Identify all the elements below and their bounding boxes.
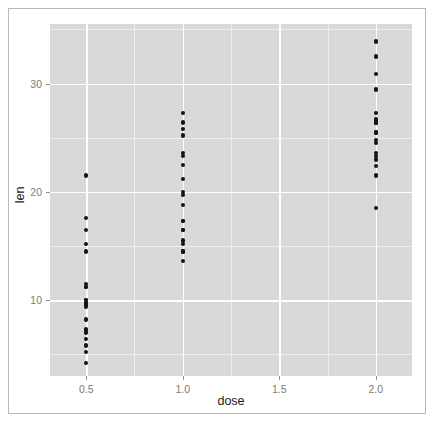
data-point bbox=[374, 138, 378, 142]
y-tick-label: 10 bbox=[12, 295, 42, 306]
data-point bbox=[181, 203, 185, 207]
gridline-minor-horizontal bbox=[50, 138, 412, 139]
chart-figure: 0.51.01.52.0102030 dose len bbox=[0, 0, 434, 422]
data-point bbox=[374, 54, 378, 58]
data-point bbox=[374, 111, 378, 115]
y-tick-mark bbox=[46, 84, 50, 85]
gridline-major-vertical bbox=[279, 24, 281, 376]
x-tick-label: 0.5 bbox=[79, 384, 94, 395]
gridline-minor-horizontal bbox=[50, 29, 412, 30]
x-tick-label: 1.0 bbox=[175, 384, 190, 395]
data-point bbox=[181, 190, 185, 194]
y-tick-mark bbox=[46, 300, 50, 301]
gridline-major-vertical bbox=[376, 24, 378, 376]
data-point bbox=[374, 120, 378, 124]
data-point bbox=[374, 173, 378, 177]
gridline-major-horizontal bbox=[50, 84, 412, 86]
gridline-major-vertical bbox=[183, 24, 185, 376]
data-point bbox=[181, 249, 185, 253]
gridline-major-horizontal bbox=[50, 300, 412, 302]
x-axis-title: dose bbox=[50, 394, 412, 408]
data-point bbox=[181, 120, 185, 124]
y-tick-label: 30 bbox=[12, 78, 42, 89]
gridline-minor-vertical bbox=[328, 24, 329, 376]
x-tick-mark bbox=[279, 376, 280, 380]
gridline-major-horizontal bbox=[50, 192, 412, 194]
data-point bbox=[181, 177, 185, 181]
data-point bbox=[374, 130, 378, 134]
x-tick-label: 2.0 bbox=[368, 384, 383, 395]
data-point bbox=[374, 72, 378, 76]
data-point bbox=[84, 301, 88, 305]
gridline-minor-horizontal bbox=[50, 354, 412, 355]
data-point bbox=[374, 164, 378, 168]
gridline-minor-vertical bbox=[231, 24, 232, 376]
x-tick-label: 1.5 bbox=[272, 384, 287, 395]
x-tick-mark bbox=[376, 376, 377, 380]
y-tick-mark bbox=[46, 192, 50, 193]
x-tick-mark bbox=[183, 376, 184, 380]
gridline-minor-vertical bbox=[134, 24, 135, 376]
plot-panel bbox=[50, 24, 412, 376]
gridline-minor-horizontal bbox=[50, 246, 412, 247]
data-point bbox=[181, 163, 185, 167]
data-point bbox=[374, 39, 378, 43]
x-tick-mark bbox=[86, 376, 87, 380]
gridline-major-vertical bbox=[86, 24, 88, 376]
data-point bbox=[181, 111, 185, 115]
data-point bbox=[181, 133, 185, 137]
data-point bbox=[181, 238, 185, 242]
data-point bbox=[84, 249, 88, 253]
data-point bbox=[181, 151, 185, 155]
data-point bbox=[181, 228, 185, 232]
y-axis-title: len bbox=[13, 165, 27, 225]
data-point bbox=[374, 157, 378, 161]
